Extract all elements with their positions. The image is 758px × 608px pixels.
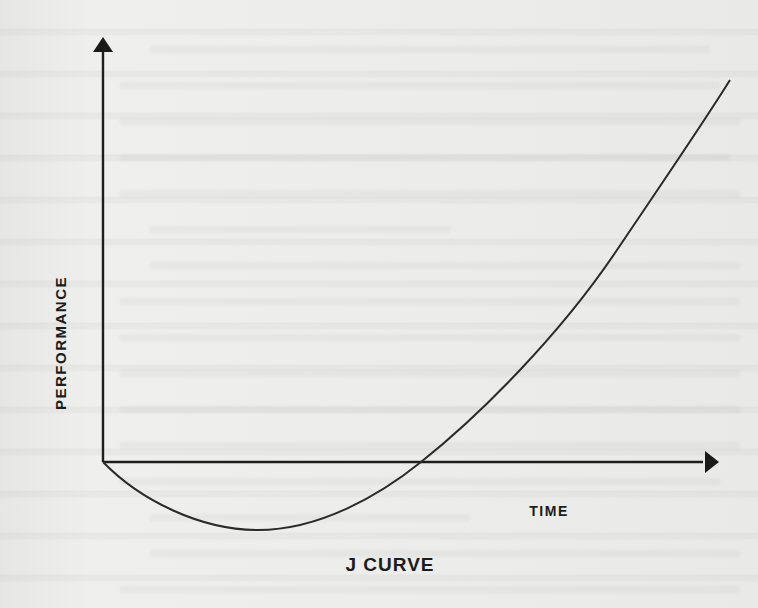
y-axis-arrow-icon xyxy=(93,37,113,52)
diagram-caption: J CURVE xyxy=(345,554,434,576)
j-curve-diagram xyxy=(0,0,758,608)
y-axis xyxy=(93,37,113,462)
x-axis-label: TIME xyxy=(529,503,568,519)
y-axis-label: PERFORMANCE xyxy=(52,276,69,410)
x-axis-arrow-icon xyxy=(705,451,719,473)
